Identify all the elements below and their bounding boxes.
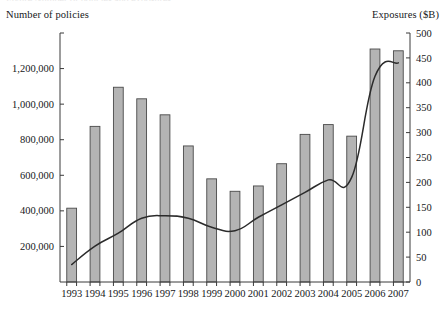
x-axis: 1993199419951996199719981999200020012002…	[60, 282, 410, 299]
x-axis-label-2005: 2005	[341, 288, 362, 299]
bar-1998	[183, 146, 193, 282]
right-axis-tick-label: 300	[416, 127, 432, 138]
x-axis-label-1995: 1995	[108, 288, 129, 299]
x-axis-label-2007: 2007	[388, 288, 409, 299]
right-axis-tick-label: 350	[416, 102, 432, 113]
x-axis-label-2002: 2002	[271, 288, 292, 299]
x-axis-label-1993: 1993	[61, 288, 82, 299]
left-axis: 200,000400,000600,000800,0001,000,0001,2…	[12, 33, 64, 282]
right-axis-tick-label: 250	[416, 152, 432, 163]
x-axis-label-2004: 2004	[318, 288, 340, 299]
right-axis-tick-label: 400	[416, 77, 432, 88]
bar-2002	[277, 164, 287, 282]
bar-2003	[300, 134, 310, 282]
right-axis-tick-label: 450	[416, 53, 432, 64]
bar-1994	[90, 126, 100, 282]
x-axis-label-2000: 2000	[225, 288, 246, 299]
bar-series	[67, 49, 403, 282]
x-axis-label-2003: 2003	[295, 288, 316, 299]
right-axis-tick-label: 200	[416, 177, 432, 188]
bar-1997	[160, 115, 170, 282]
x-axis-label-1997: 1997	[155, 288, 176, 299]
bar-2005	[347, 136, 357, 282]
bar-1995	[113, 87, 123, 282]
x-axis-label-1998: 1998	[178, 288, 199, 299]
right-axis-tick-label: 50	[416, 252, 427, 263]
bar-1999	[207, 179, 217, 282]
right-axis-tick-label: 0	[416, 277, 421, 288]
bar-2001	[253, 186, 263, 282]
bar-2007	[393, 51, 403, 282]
left-axis-tick-label: 1,000,000	[12, 99, 54, 110]
bar-2000	[230, 191, 240, 282]
left-axis-tick-label: 800,000	[20, 134, 54, 145]
bar-2006	[370, 49, 380, 282]
left-axis-tick-label: 400,000	[20, 205, 54, 216]
figure-container: Figure Number of policies and exposures …	[0, 0, 443, 310]
bar-1996	[137, 99, 147, 282]
right-axis-tick-label: 100	[416, 227, 432, 238]
bar-2004	[323, 125, 333, 282]
x-axis-label-1994: 1994	[85, 288, 107, 299]
right-axis-tick-label: 150	[416, 202, 432, 213]
x-axis-label-2001: 2001	[248, 288, 269, 299]
left-axis-tick-label: 200,000	[20, 241, 54, 252]
x-axis-label-1999: 1999	[201, 288, 222, 299]
left-axis-tick-label: 1,200,000	[12, 63, 54, 74]
left-axis-tick-label: 600,000	[20, 170, 54, 181]
right-axis-tick-label: 500	[416, 28, 432, 39]
x-axis-label-1996: 1996	[131, 288, 152, 299]
x-axis-label-2006: 2006	[365, 288, 386, 299]
bar-1993	[67, 208, 77, 282]
chart-plot-area: 200,000400,000600,000800,0001,000,0001,2…	[0, 0, 443, 310]
right-axis: 050100150200250300350400450500	[406, 28, 432, 288]
